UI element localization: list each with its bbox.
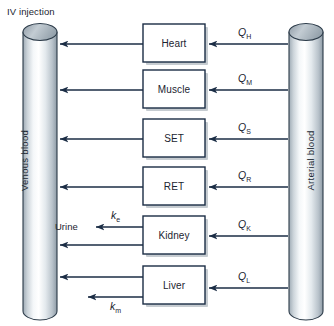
rate-label-km: km	[110, 300, 121, 314]
arterial-blood-label: Arterial blood	[305, 119, 316, 203]
flow-subscript: R	[246, 176, 251, 183]
flow-label-ret: QR	[238, 169, 251, 183]
organ-label-liver: Liver	[143, 280, 205, 291]
iv-injection-label: IV injection	[7, 6, 55, 17]
organ-boxes	[143, 24, 205, 304]
flow-symbol: Q	[238, 270, 246, 282]
flow-symbol: Q	[238, 169, 246, 181]
flow-subscript: M	[246, 79, 252, 86]
organ-label-ret: RET	[143, 181, 205, 192]
flow-label-set: QS	[238, 121, 251, 135]
flow-label-heart: QH	[238, 26, 251, 40]
flow-subscript: H	[246, 33, 251, 40]
organ-label-muscle: Muscle	[143, 84, 205, 95]
flow-symbol: Q	[238, 218, 246, 230]
flow-subscript: K	[246, 225, 251, 232]
flow-label-kidney: QK	[238, 218, 251, 232]
rate-label-ke: ke	[111, 209, 120, 223]
organ-label-heart: Heart	[143, 38, 205, 49]
urine-label: Urine	[55, 221, 78, 232]
rate-subscript: m	[115, 307, 121, 314]
organ-label-kidney: Kidney	[143, 230, 205, 241]
flow-label-liver: QL	[238, 270, 250, 284]
rate-subscript: e	[116, 216, 120, 223]
flow-subscript: L	[246, 277, 250, 284]
flow-symbol: Q	[238, 72, 246, 84]
flow-symbol: Q	[238, 121, 246, 133]
venous-blood-label: Venous blood	[19, 119, 30, 203]
organ-label-set: SET	[143, 133, 205, 144]
flow-subscript: S	[246, 128, 251, 135]
flow-label-muscle: QM	[238, 72, 252, 86]
flow-symbol: Q	[238, 26, 246, 38]
pbpk-diagram: IV injection Venous blood Arterial blood…	[0, 0, 334, 326]
